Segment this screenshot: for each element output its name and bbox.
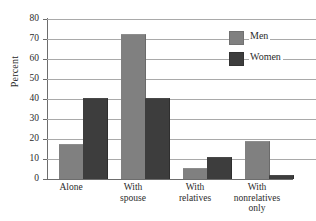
legend-item-women: Women [229, 49, 309, 70]
bar-women-with-relatives [207, 157, 232, 179]
x-axis-category-labels: Alone With spouse With relatives With no… [47, 182, 293, 221]
category-label-with-nonrelatives-only-line1: With [216, 182, 298, 193]
gridline-80 [47, 19, 316, 20]
bar-women-with-spouse [145, 98, 170, 179]
y-tick-30: 30 [30, 114, 40, 123]
bar-men-with-nonrelatives-only [245, 141, 270, 179]
bar-chart-figure: Percent 80 70 60 50 40 30 20 10 0 [0, 0, 316, 221]
gridline-50 [47, 79, 316, 80]
y-tick-20: 20 [30, 134, 40, 143]
category-label-with-nonrelatives-only: With nonrelatives only [216, 182, 298, 214]
bar-women-with-nonrelatives-only [269, 175, 294, 179]
y-tick-10: 10 [30, 154, 40, 163]
bar-women-alone [83, 98, 108, 179]
y-tick-60: 60 [30, 54, 40, 63]
category-label-with-nonrelatives-only-line2: nonrelatives [216, 193, 298, 204]
bar-men-with-spouse [121, 34, 146, 179]
chart-legend: Men Women [229, 28, 309, 70]
category-label-with-nonrelatives-only-line3: only [216, 203, 298, 214]
bar-men-with-relatives [183, 168, 208, 179]
legend-item-men: Men [229, 28, 309, 49]
y-tick-70: 70 [30, 34, 40, 43]
bar-men-alone [59, 144, 84, 179]
y-tick-80: 80 [30, 14, 40, 23]
y-tick-50: 50 [30, 74, 40, 83]
legend-swatch-women-icon [229, 52, 244, 66]
legend-swatch-men-icon [229, 31, 244, 45]
gridline-baseline [47, 179, 293, 180]
legend-label-men: Men [249, 30, 270, 43]
y-tick-40: 40 [30, 94, 40, 103]
legend-label-women: Women [249, 51, 283, 64]
